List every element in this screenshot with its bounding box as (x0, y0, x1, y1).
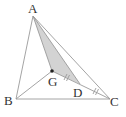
label-b: B (4, 93, 13, 108)
diagram-canvas: A B C G D (0, 0, 126, 117)
segment-ab (16, 16, 33, 99)
label-g: G (48, 74, 57, 89)
segment-ca (33, 16, 110, 99)
label-a: A (28, 1, 38, 16)
label-c: C (110, 94, 119, 109)
point-g (50, 69, 54, 73)
triangle-diagram: A B C G D (0, 0, 126, 117)
segment-bg (16, 71, 52, 99)
label-d: D (73, 85, 82, 100)
equal-mark-dc (93, 88, 99, 95)
